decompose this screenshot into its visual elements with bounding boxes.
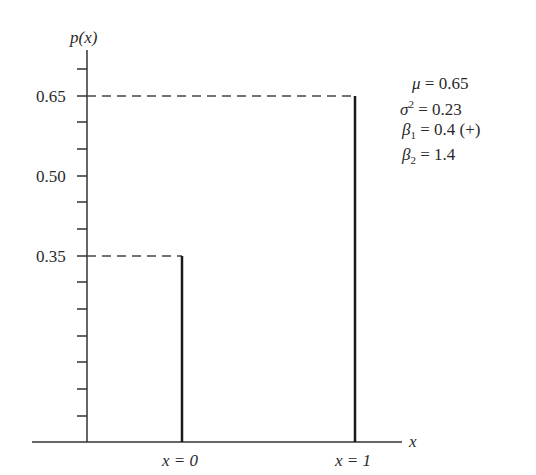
stats-annotation: μ = 0.65 σ2 = 0.23 β1 = 0.4 (+) β2 = 1.4 <box>400 74 480 170</box>
ytick-label-035: 0.35 <box>36 247 66 266</box>
x-axis-label: x <box>408 432 417 451</box>
y-ticks <box>77 69 87 416</box>
ytick-label-065: 0.65 <box>36 87 66 106</box>
chart-canvas: p(x) 0.65 0.50 0.35 x x = 0 x = 1 <box>0 0 536 475</box>
xcat-label-0: x = 0 <box>161 451 199 470</box>
xcat-label-1: x = 1 <box>334 451 371 470</box>
stat-variance: σ2 = 0.23 <box>400 94 480 120</box>
stat-skewness: β1 = 0.4 (+) <box>400 120 480 145</box>
y-axis-label: p(x) <box>69 28 98 47</box>
ytick-label-050: 0.50 <box>36 167 66 186</box>
stat-mean: μ = 0.65 <box>400 74 480 94</box>
stat-kurtosis: β2 = 1.4 <box>400 145 480 170</box>
